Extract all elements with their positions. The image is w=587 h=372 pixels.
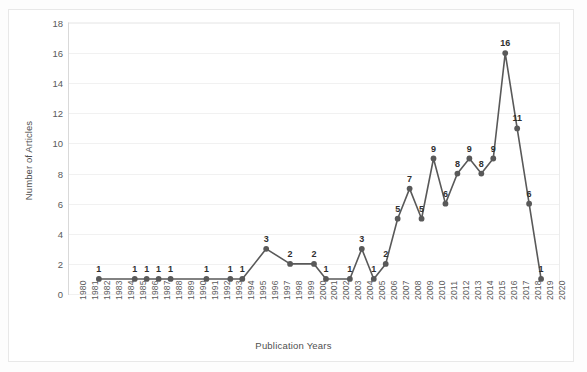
data-point-marker [538,276,544,282]
data-point-label: 1 [204,264,209,274]
data-point-label: 2 [288,249,293,259]
data-point-marker [526,201,532,207]
data-point-marker [514,125,520,131]
plot-area: 024681012141618 198019811982198319841985… [68,22,560,295]
data-point-marker [455,171,461,177]
data-point-marker [466,156,472,162]
data-point-label: 1 [347,264,352,274]
data-point-label: 6 [527,189,532,199]
data-point-marker [419,216,425,222]
data-point-marker [443,201,449,207]
y-tick-label: 16 [52,48,69,59]
data-point-marker [204,276,210,282]
data-point-label: 3 [264,234,269,244]
y-tick-label: 14 [52,78,69,89]
y-tick-label: 18 [52,18,69,29]
y-tick-label: 8 [58,168,69,179]
data-point-label: 16 [500,38,510,48]
y-tick-label: 2 [58,258,69,269]
data-point-marker [168,276,174,282]
data-point-marker [347,276,353,282]
data-point-label: 1 [144,264,149,274]
data-point-label: 2 [383,249,388,259]
y-tick-label: 10 [52,138,69,149]
data-point-label: 5 [395,204,400,214]
data-point-label: 1 [228,264,233,274]
data-point-marker [490,156,496,162]
x-axis-title: Publication Years [0,340,587,351]
data-point-label: 9 [491,144,496,154]
data-point-label: 1 [371,264,376,274]
data-point-label: 11 [512,113,522,123]
data-point-label: 1 [323,264,328,274]
data-point-label: 5 [419,204,424,214]
data-point-marker [239,276,245,282]
data-point-label: 1 [96,264,101,274]
data-point-marker [227,276,233,282]
data-point-label: 1 [539,264,544,274]
y-tick-label: 4 [58,228,69,239]
data-point-marker [371,276,377,282]
data-point-marker [431,156,437,162]
data-point-label: 1 [156,264,161,274]
data-point-label: 8 [455,159,460,169]
data-point-marker [311,261,317,267]
data-point-label: 8 [479,159,484,169]
data-point-marker [323,276,329,282]
data-point-label: 6 [443,189,448,199]
data-point-label: 7 [407,174,412,184]
series-line [99,53,541,279]
data-point-marker [132,276,138,282]
data-point-marker [156,276,162,282]
data-point-label: 1 [132,264,137,274]
y-tick-label: 6 [58,198,69,209]
data-point-label: 3 [359,234,364,244]
data-point-marker [287,261,293,267]
data-point-label: 2 [311,249,316,259]
data-point-marker [502,50,508,56]
data-point-marker [395,216,401,222]
y-axis-title: Number of Articles [23,96,34,226]
y-tick-label: 12 [52,108,69,119]
data-point-label: 1 [168,264,173,274]
data-point-marker [407,186,413,192]
data-point-label: 9 [467,144,472,154]
y-tick-label: 0 [58,289,69,300]
chart-root: Number of Articles 024681012141618 19801… [0,0,587,372]
data-point-marker [383,261,389,267]
data-point-marker [96,276,102,282]
data-point-marker [144,276,150,282]
data-point-label: 1 [240,264,245,274]
data-point-label: 9 [431,144,436,154]
data-point-marker [263,246,269,252]
data-point-marker [478,171,484,177]
data-point-marker [359,246,365,252]
